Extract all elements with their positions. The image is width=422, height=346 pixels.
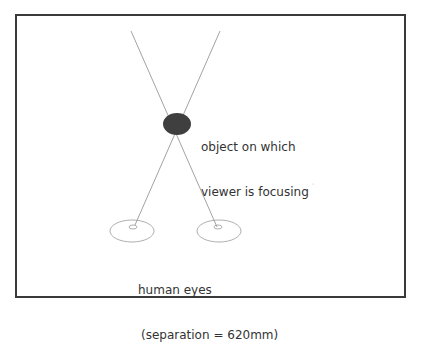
scan-speck — [312, 183, 313, 184]
eyes-label: human eyes (separation = 620mm) — [138, 253, 278, 346]
right-eye-icon — [197, 220, 241, 242]
object-label: object on which viewer is focusing — [201, 110, 309, 215]
object-label-line1: object on which — [201, 140, 309, 155]
eyes-label-line1: human eyes — [138, 283, 278, 298]
object-label-line2: viewer is focusing — [201, 185, 309, 200]
focused-object-icon — [163, 113, 191, 135]
left-eye-icon — [110, 220, 154, 242]
eyes-label-line2: (separation = 620mm) — [138, 328, 278, 343]
